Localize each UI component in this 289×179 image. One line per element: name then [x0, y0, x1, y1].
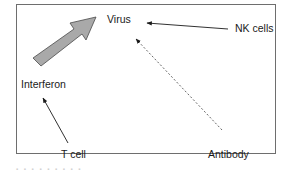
interferon-to-virus-arrow — [33, 17, 96, 66]
nk-cells-to-virus-arrow — [147, 23, 228, 29]
figure-caption: ▪ ▪ ▪ ▪ ▪ ▪ ▪ ▪ ▪ — [16, 166, 82, 172]
antibody-to-virus-arrow — [136, 39, 222, 130]
node-antibody: Antibody — [208, 148, 249, 160]
t-cell-to-interferon-arrow — [43, 98, 68, 143]
node-t-cell: T cell — [61, 148, 86, 160]
node-nk-cells: NK cells — [235, 22, 274, 34]
node-interferon: Interferon — [21, 78, 66, 90]
node-virus: Virus — [107, 13, 131, 25]
